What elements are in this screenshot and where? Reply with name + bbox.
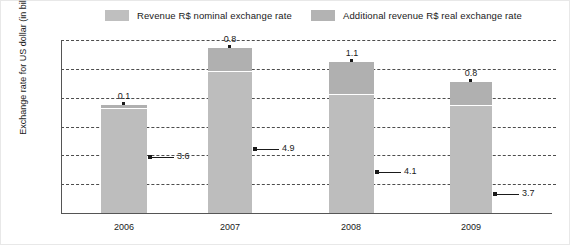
top-marker-2008	[350, 59, 353, 62]
legend-label-additional: Additional revenue R$ real exchange rate	[343, 10, 522, 21]
legend-item-nominal: Revenue R$ nominal exchange rate	[105, 10, 292, 21]
bar-2007[interactable]	[208, 49, 252, 213]
side-value-2008: 4.1	[404, 166, 417, 176]
top-marker-2009	[469, 79, 472, 82]
side-leader-2008	[379, 172, 401, 173]
top-value-2007: 0.8	[200, 34, 260, 44]
bar-segment-nominal-2008	[329, 95, 374, 213]
gridline-6	[61, 40, 556, 41]
x-tick-2006: 2006	[94, 222, 154, 232]
x-axis-line	[61, 213, 552, 214]
y-axis-line	[61, 40, 62, 214]
legend-swatch-nominal	[105, 10, 129, 21]
bar-segment-additional-2008	[329, 62, 374, 95]
bar-segment-additional-2006	[101, 105, 147, 109]
top-value-2009: 0.8	[441, 68, 501, 78]
x-tick-2007: 2007	[200, 222, 260, 232]
plot-area: 6.0 5.0 4.0 3.0 2.0 1.0 0.0 0.1 3.6 0.8 …	[61, 40, 556, 213]
y-axis-title: Exchange rate for US dollar (in billion …	[18, 0, 32, 147]
chart-legend: Revenue R$ nominal exchange rate Additio…	[1, 10, 570, 26]
bar-segment-additional-2009	[450, 82, 492, 106]
legend-label-nominal: Revenue R$ nominal exchange rate	[137, 10, 292, 21]
legend-swatch-additional	[311, 10, 335, 21]
bar-segment-nominal-2009	[450, 106, 492, 213]
side-value-2006: 3.6	[177, 151, 190, 161]
top-value-2008: 1.1	[322, 48, 382, 58]
side-leader-2007	[257, 149, 279, 150]
x-tick-2008: 2008	[321, 222, 381, 232]
chart-container: Revenue R$ nominal exchange rate Additio…	[0, 0, 570, 245]
side-value-2009: 3.7	[522, 188, 535, 198]
bar-2008[interactable]	[329, 63, 374, 213]
side-value-2007: 4.9	[282, 143, 295, 153]
bar-2009[interactable]	[450, 83, 492, 213]
top-value-2006: 0.1	[94, 91, 154, 101]
bar-2006[interactable]	[101, 106, 147, 213]
top-marker-2006	[122, 102, 125, 105]
x-tick-2009: 2009	[441, 222, 501, 232]
bar-segment-nominal-2006	[101, 109, 147, 213]
top-marker-2007	[228, 45, 231, 48]
side-leader-2006	[152, 157, 174, 158]
bar-segment-additional-2007	[208, 48, 252, 72]
legend-item-additional: Additional revenue R$ real exchange rate	[311, 10, 522, 21]
side-leader-2009	[497, 194, 519, 195]
bar-segment-nominal-2007	[208, 72, 252, 213]
